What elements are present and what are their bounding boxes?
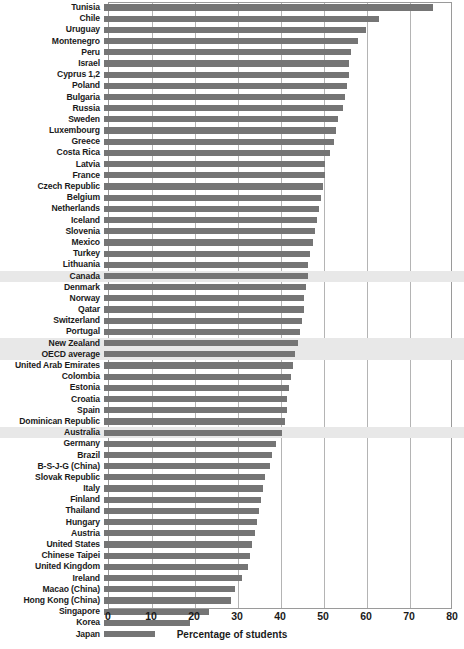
bar [104,150,330,156]
chart-row: Hong Kong (China) [0,595,464,606]
bar-cell [104,450,448,461]
bar-cell [104,103,448,114]
category-label: Slovenia [0,226,104,237]
bar-cell [104,69,448,80]
chart-row: Montenegro [0,36,464,47]
category-label: Russia [0,103,104,114]
bar-cell [104,349,448,360]
tick-label-60: 60 [360,610,372,622]
bar-cell [104,24,448,35]
bar-cell [104,170,448,181]
chart-row: Ireland [0,573,464,584]
tick-label-10: 10 [145,610,157,622]
bar-cell [104,315,448,326]
bar-cell [104,136,448,147]
chart-row: Bulgaria [0,92,464,103]
chart-row: Luxembourg [0,125,464,136]
bar-cell [104,461,448,472]
chart-row: Denmark [0,282,464,293]
bar-cell [104,561,448,572]
bar [104,195,321,201]
bar [104,553,250,559]
chart-row: Belgium [0,192,464,203]
bar [104,127,336,133]
bar [104,430,282,436]
bar-cell [104,237,448,248]
category-label: Peru [0,47,104,58]
chart-row: Russia [0,103,464,114]
chart-row: Norway [0,293,464,304]
chart-row: Macao (China) [0,584,464,595]
bar [104,72,349,78]
bar [104,60,349,66]
chart-row: Finland [0,494,464,505]
bar [104,172,325,178]
chart-row: United Kingdom [0,561,464,572]
pisa-bar-chart: TunisiaChileUruguayMontenegroPeruIsraelC… [0,0,464,649]
bar [104,329,300,335]
bar [104,49,351,55]
bar-cell [104,595,448,606]
tick-label-20: 20 [188,610,200,622]
category-label: Tunisia [0,2,104,13]
bar-cell [104,47,448,58]
bar [104,206,319,212]
chart-row: Thailand [0,505,464,516]
bar-cell [104,58,448,69]
bar [104,541,252,547]
chart-row: Switzerland [0,315,464,326]
bar-cell [104,550,448,561]
category-label: Italy [0,483,104,494]
bar [104,575,242,581]
bar-cell [104,528,448,539]
bar [104,351,295,357]
bar-cell [104,92,448,103]
chart-row: Spain [0,405,464,416]
chart-row: Canada [0,271,464,282]
chart-row: Brazil [0,450,464,461]
category-label: Uruguay [0,24,104,35]
bar-cell [104,181,448,192]
bar-cell [104,2,448,13]
bar [104,418,285,424]
bar-cell [104,159,448,170]
bar-cell [104,427,448,438]
bar [104,284,306,290]
chart-row: Portugal [0,326,464,337]
chart-row: Netherlands [0,203,464,214]
category-label: Luxembourg [0,125,104,136]
category-label: Colombia [0,371,104,382]
category-label: Dominican Republic [0,416,104,427]
bar [104,586,235,592]
bar-cell [104,36,448,47]
bar-cell [104,125,448,136]
bar [104,139,334,145]
bar [104,16,379,22]
chart-row: Dominican Republic [0,416,464,427]
bar [104,441,276,447]
bar-cell [104,360,448,371]
bar [104,564,248,570]
chart-row: Chile [0,13,464,24]
bar [104,374,291,380]
category-label: Croatia [0,394,104,405]
tick-label-40: 40 [274,610,286,622]
bar [104,508,259,514]
category-label: Greece [0,136,104,147]
chart-row: Tunisia [0,2,464,13]
tick-label-50: 50 [317,610,329,622]
bar [104,94,345,100]
chart-row: Chinese Taipei [0,550,464,561]
category-label: Australia [0,427,104,438]
category-label: France [0,170,104,181]
chart-row: New Zealand [0,338,464,349]
category-label: Thailand [0,505,104,516]
bar-cell [104,147,448,158]
bar [104,116,338,122]
category-label: Montenegro [0,36,104,47]
bar [104,362,293,368]
x-axis-ticks: 01020304050607080 [108,610,452,628]
category-label: Turkey [0,248,104,259]
chart-row: Colombia [0,371,464,382]
chart-row: United Arab Emirates [0,360,464,371]
